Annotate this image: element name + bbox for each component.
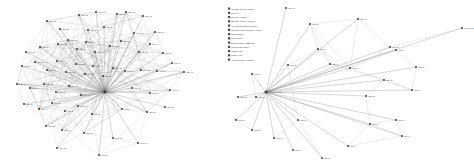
graph-node[interactable] [112, 67, 114, 69]
graph-node[interactable] [23, 103, 25, 105]
graph-node[interactable] [56, 60, 58, 62]
graph-node[interactable] [57, 43, 59, 45]
graph-node[interactable] [138, 51, 140, 53]
graph-edge [99, 92, 105, 155]
legend-label: Practical Design Network Access [231, 29, 261, 31]
legend-label: Network Security Course [231, 8, 255, 10]
graph-node[interactable] [146, 111, 148, 113]
graph-node[interactable] [83, 132, 85, 134]
graph-node[interactable] [237, 96, 239, 98]
graph-node[interactable] [38, 108, 40, 110]
graph-node[interactable] [140, 69, 142, 71]
graph-node[interactable] [75, 63, 77, 65]
graph-node[interactable] [64, 110, 66, 112]
graph-node-label: node r5 [290, 64, 296, 66]
graph-node[interactable] [98, 154, 100, 156]
graph-node[interactable] [169, 89, 171, 91]
graph-node[interactable] [369, 123, 371, 125]
graph-node[interactable] [156, 70, 158, 72]
graph-node[interactable] [162, 52, 164, 54]
graph-node[interactable] [415, 66, 417, 68]
graph-node-label: node r6 [332, 63, 338, 65]
graph-hub-node[interactable] [104, 91, 107, 94]
graph-node[interactable] [171, 62, 173, 64]
graph-node[interactable] [61, 129, 63, 131]
graph-node[interactable] [273, 137, 275, 139]
network-legend: Network Security CoursePrivacySecurity A… [228, 8, 262, 61]
graph-node[interactable] [357, 18, 359, 20]
graph-node[interactable] [164, 106, 166, 108]
graph-node[interactable] [365, 95, 367, 97]
graph-node[interactable] [251, 73, 253, 75]
graph-node[interactable] [25, 51, 27, 53]
graph-node[interactable] [395, 119, 397, 121]
graph-node[interactable] [85, 41, 87, 43]
graph-node[interactable] [116, 13, 118, 15]
graph-node[interactable] [395, 49, 397, 51]
graph-node[interactable] [39, 46, 41, 48]
graph-hub-node[interactable] [265, 91, 268, 94]
graph-node[interactable] [347, 145, 349, 147]
graph-node[interactable] [55, 91, 57, 93]
graph-node[interactable] [131, 87, 133, 89]
graph-node[interactable] [383, 79, 385, 81]
graph-node[interactable] [94, 51, 96, 53]
graph-node[interactable] [87, 29, 89, 31]
graph-node[interactable] [321, 157, 323, 159]
graph-node[interactable] [154, 31, 156, 33]
graph-node[interactable] [46, 69, 48, 71]
graph-node[interactable] [21, 65, 23, 67]
graph-node[interactable] [121, 108, 123, 110]
graph-node[interactable] [103, 26, 105, 28]
graph-node[interactable] [297, 119, 299, 121]
graph-node[interactable] [251, 129, 253, 131]
graph-node[interactable] [95, 11, 97, 13]
graph-node[interactable] [317, 48, 319, 50]
graph-node[interactable] [59, 28, 61, 30]
graph-node[interactable] [285, 7, 287, 9]
graph-node[interactable] [76, 48, 78, 50]
graph-node[interactable] [255, 96, 257, 98]
graph-node[interactable] [142, 15, 144, 17]
graph-node[interactable] [91, 113, 93, 115]
graph-node[interactable] [78, 14, 80, 16]
graph-node[interactable] [292, 149, 294, 151]
graph-node[interactable] [389, 46, 391, 48]
graph-node[interactable] [16, 83, 18, 85]
graph-node[interactable] [461, 27, 463, 29]
graph-node[interactable] [102, 75, 104, 77]
graph-node[interactable] [45, 125, 47, 127]
graph-node[interactable] [235, 119, 237, 121]
graph-node[interactable] [149, 92, 151, 94]
graph-node[interactable] [56, 147, 58, 149]
graph-node[interactable] [80, 94, 82, 96]
graph-node[interactable] [92, 65, 94, 67]
graph-node[interactable] [309, 23, 311, 25]
graph-node[interactable] [46, 20, 48, 22]
graph-node[interactable] [29, 87, 31, 89]
graph-node[interactable] [349, 67, 351, 69]
graph-node[interactable] [133, 32, 135, 34]
graph-node[interactable] [68, 85, 70, 87]
graph-node[interactable] [112, 137, 114, 139]
graph-node[interactable] [109, 45, 111, 47]
graph-node[interactable] [84, 73, 86, 75]
graph-node[interactable] [329, 63, 331, 65]
graph-node[interactable] [120, 40, 122, 42]
graph-node[interactable] [67, 39, 69, 41]
graph-node[interactable] [77, 105, 79, 107]
graph-node[interactable] [183, 71, 185, 73]
graph-node[interactable] [51, 102, 53, 104]
graph-node[interactable] [411, 89, 413, 91]
graph-node[interactable] [287, 64, 289, 66]
graph-node[interactable] [43, 83, 45, 85]
graph-node[interactable] [401, 135, 403, 137]
graph-edge [132, 72, 184, 88]
graph-node[interactable] [65, 71, 67, 73]
graph-node-label: node t5 [372, 123, 378, 125]
graph-node[interactable] [124, 70, 126, 72]
graph-node[interactable] [125, 11, 127, 13]
graph-node[interactable] [34, 61, 36, 63]
graph-node[interactable] [137, 142, 139, 144]
graph-node[interactable] [149, 43, 151, 45]
